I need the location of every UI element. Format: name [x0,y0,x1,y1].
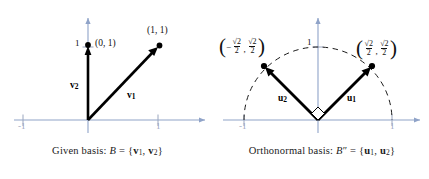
coord-u2-x-num: √2 [232,38,242,46]
vector-label-u1: u1 [347,93,356,104]
paren-open-right: ( [356,40,363,57]
coord-u1-x-den: 2 [366,48,372,57]
coord-u2-comma: , [242,44,246,55]
coord-u2-x-den: 2 [234,46,240,55]
caption-right-symbol: B [336,145,343,156]
coord-u1-y-den: 2 [381,48,387,57]
vector-v1 [88,43,162,120]
right-angle-marker [312,107,325,120]
coord-u1-y-frac: √2 2 [379,40,389,57]
coord-u2-x-frac: √2 2 [232,38,242,55]
right-xtick-neg1: -1 [239,121,247,131]
paren-close-right: ) [390,40,397,57]
coord-u2-x-sign: − [226,42,231,52]
coord-u2-y-num: √2 [247,38,257,46]
coord-u1-y-num: √2 [379,40,389,48]
left-ticks [23,47,158,126]
left-xtick-1: 1 [156,121,161,131]
vector-label-v1-sub: 1 [132,92,136,101]
left-point-label-0-1: (0, 1) [95,38,116,48]
right-ytick-1: 1 [307,37,312,47]
coordinate-label-u2: ( − √2 2 , √2 2 ) [219,38,265,55]
caption-given-basis: Given basis: B = {v1, v2} [0,145,215,157]
caption-right-eq: = [347,145,359,156]
vector-basis-figure: -1 1 1 (0, 1) (1, 1) v2 v1 Given basis: … [0,0,429,179]
vector-label-u2-sub: 2 [283,95,287,104]
caption-left-prefix: Given basis: [52,145,109,156]
paren-close-left: ) [258,38,265,55]
panel-orthonormal-basis: -1 1 1 ( − √2 2 , √2 2 ) ( √2 2 , [215,0,429,179]
left-axes [14,18,205,133]
coord-u2-y-frac: √2 2 [247,38,257,55]
paren-open-left: ( [219,38,226,55]
left-point-label-1-1: (1, 1) [147,25,168,35]
coord-u2-y-den: 2 [249,46,255,55]
left-xtick-neg1: -1 [18,121,26,131]
vector-label-u2: u2 [278,93,287,104]
caption-right-brace-close: } [390,145,395,156]
vector-label-v2-sub: 2 [75,82,79,91]
caption-left-eq: = [116,145,128,156]
coordinate-label-u1: ( √2 2 , √2 2 ) [356,40,397,57]
vector-label-v1: v1 [127,90,136,101]
vector-label-u1-sub: 1 [352,95,356,104]
coord-u1-comma: , [374,46,378,57]
caption-left-brace-close: } [158,145,163,156]
vector-u1 [318,63,375,120]
caption-orthonormal-basis: Orthonormal basis: B″ = {u1, u2} [215,145,429,157]
panel-given-basis: -1 1 1 (0, 1) (1, 1) v2 v1 Given basis: … [0,0,215,179]
vector-v2 [85,42,92,120]
vector-label-v2: v2 [70,80,79,91]
left-ytick-1: 1 [75,38,80,48]
right-xtick-1: 1 [390,121,395,131]
coord-u1-x-num: √2 [364,40,374,48]
vector-u2 [261,63,318,120]
caption-right-prefix: Orthonormal basis: [249,145,336,156]
coord-u1-x-frac: √2 2 [364,40,374,57]
